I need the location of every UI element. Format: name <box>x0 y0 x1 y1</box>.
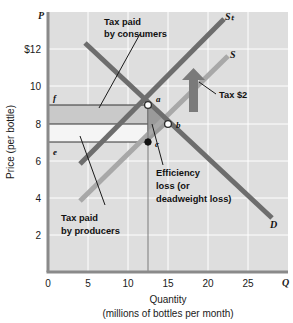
annotation-tax-paid-by-consumers-line2: by consumers <box>104 29 167 39</box>
y-tick-2: 2 <box>35 230 41 241</box>
y-tick-10: 10 <box>30 81 42 92</box>
region-tax-paid-by-producers <box>48 124 148 142</box>
y-tick-4: 4 <box>35 193 41 204</box>
annotation-tax-amount: Tax $2 <box>219 90 247 100</box>
x-axis-title: Quantity <box>149 294 186 305</box>
point-a <box>145 102 152 109</box>
point-b <box>165 121 172 128</box>
annotation-efficiency-loss-line3: deadweight loss) <box>156 194 231 204</box>
y-axis-title: Price (per bottle) <box>5 105 16 179</box>
x-tick-25: 25 <box>242 278 254 289</box>
supply-demand-tax-chart: a b c f e Sₜ S D P Q 2 4 6 8 10 $12 0 5 … <box>0 0 293 323</box>
point-a-label: a <box>156 94 161 104</box>
curve-label-st: Sₜ <box>225 11 235 22</box>
x-axis-subtitle: (millions of bottles per month) <box>102 308 233 319</box>
annotation-efficiency-loss-line1: Efficiency <box>156 168 201 178</box>
annotation-tax-paid-by-producers-line1: Tax paid <box>61 213 98 223</box>
x-tick-15: 15 <box>162 278 174 289</box>
point-c <box>145 139 151 145</box>
point-e-label: e <box>53 147 57 157</box>
y-tick-8: 8 <box>35 119 41 130</box>
x-tick-5: 5 <box>85 278 91 289</box>
curve-label-s: S <box>230 49 236 60</box>
point-c-label: c <box>155 139 159 149</box>
x-tick-10: 10 <box>122 278 134 289</box>
y-tick-6: 6 <box>35 156 41 167</box>
x-tick-0: 0 <box>45 278 51 289</box>
annotation-efficiency-loss-line2: loss (or <box>156 181 190 191</box>
y-tick-12: $12 <box>24 44 41 55</box>
x-axis-symbol: Q <box>282 277 289 288</box>
x-tick-20: 20 <box>202 278 214 289</box>
y-axis-symbol: P <box>38 10 45 21</box>
curve-label-d: D <box>269 219 277 230</box>
annotation-tax-paid-by-consumers-line1: Tax paid <box>104 17 141 27</box>
annotation-tax-paid-by-producers-line2: by producers <box>61 226 120 236</box>
point-b-label: b <box>176 120 181 130</box>
